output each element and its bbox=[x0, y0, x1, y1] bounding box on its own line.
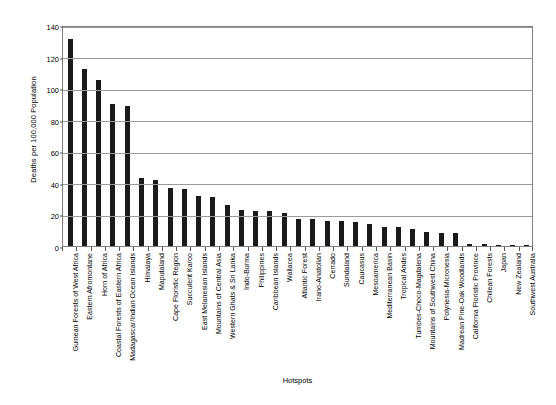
x-category-label: Philippines bbox=[258, 253, 265, 287]
bar bbox=[382, 227, 387, 246]
y-tick-mark bbox=[60, 153, 63, 154]
x-tick-mark bbox=[490, 247, 491, 251]
y-tick-mark bbox=[60, 184, 63, 185]
x-tick-mark bbox=[262, 247, 263, 251]
x-tick-mark bbox=[305, 247, 306, 251]
y-tick-mark bbox=[60, 121, 63, 122]
x-category-label: Mesoamerica bbox=[372, 253, 379, 296]
x-category-label: Guinean Forests of West Africa bbox=[72, 253, 79, 351]
x-tick-mark bbox=[62, 247, 63, 251]
bar bbox=[410, 229, 415, 246]
x-axis-title: Hotspots bbox=[62, 376, 533, 385]
y-tick-label: 120 bbox=[46, 54, 59, 63]
x-category-label: Madrean Pine-Oak Woodlands bbox=[458, 253, 465, 350]
x-tick-mark bbox=[119, 247, 120, 251]
bar bbox=[510, 245, 515, 246]
bar bbox=[310, 219, 315, 246]
gridline bbox=[63, 121, 532, 122]
x-category-label: East Melanesian Islands bbox=[201, 253, 208, 330]
x-category-label: Indo-Burma bbox=[243, 253, 250, 290]
bar bbox=[353, 222, 358, 246]
bar bbox=[225, 205, 230, 246]
y-tick-label: 140 bbox=[46, 23, 59, 32]
x-tick-mark bbox=[205, 247, 206, 251]
x-category-label: Himalaya bbox=[144, 253, 151, 283]
x-tick-mark bbox=[248, 247, 249, 251]
bar bbox=[524, 245, 529, 246]
x-tick-mark bbox=[447, 247, 448, 251]
x-category-label: Wallacea bbox=[286, 253, 293, 282]
x-category-label: Succulent Karoo bbox=[186, 253, 193, 305]
plot-area: 020406080100120140 bbox=[62, 26, 533, 247]
x-tick-mark bbox=[476, 247, 477, 251]
x-tick-mark bbox=[219, 247, 220, 251]
x-category-label: Tumbes-Choco-Magdalena bbox=[415, 253, 422, 339]
x-category-label: Japan bbox=[500, 253, 507, 272]
x-category-label: Cape Floristic Region bbox=[172, 253, 179, 321]
x-category-label: Atlantic Forest bbox=[301, 253, 308, 299]
x-tick-mark bbox=[333, 247, 334, 251]
x-tick-mark bbox=[91, 247, 92, 251]
y-tick-label: 60 bbox=[51, 149, 59, 158]
x-category-label: Caribbean Islands bbox=[272, 253, 279, 310]
x-category-label: New Zealand bbox=[515, 253, 522, 295]
y-tick-label: 20 bbox=[51, 212, 59, 221]
x-tick-mark bbox=[390, 247, 391, 251]
y-tick-mark bbox=[60, 58, 63, 59]
x-tick-mark bbox=[162, 247, 163, 251]
x-category-label: Maputaland bbox=[158, 253, 165, 290]
bar bbox=[296, 219, 301, 246]
x-tick-mark bbox=[276, 247, 277, 251]
bar bbox=[125, 106, 130, 246]
bar-chart: Deaths per 100,000 Population 0204060801… bbox=[0, 0, 556, 405]
x-axis-labels: Guinean Forests of West AfricaEastern Af… bbox=[62, 253, 533, 373]
x-category-label: Madagascar/Indian Ocean Islands bbox=[129, 253, 136, 361]
bar bbox=[110, 104, 115, 246]
x-category-label: Tropical Andes bbox=[400, 253, 407, 300]
x-tick-mark bbox=[76, 247, 77, 251]
x-category-label: Cerrado bbox=[329, 253, 336, 279]
x-tick-mark bbox=[405, 247, 406, 251]
y-tick-label: 80 bbox=[51, 117, 59, 126]
y-tick-mark bbox=[60, 90, 63, 91]
x-tick-mark bbox=[148, 247, 149, 251]
gridline bbox=[63, 216, 532, 217]
x-tick-mark bbox=[133, 247, 134, 251]
x-category-label: Caucasus bbox=[358, 253, 365, 285]
bar bbox=[453, 233, 458, 246]
gridline bbox=[63, 153, 532, 154]
x-category-label: Eastern Afromontane bbox=[86, 253, 93, 320]
bar bbox=[210, 197, 215, 246]
x-tick-mark bbox=[319, 247, 320, 251]
x-category-label: Horn of Africa bbox=[101, 253, 108, 296]
bar bbox=[282, 213, 287, 246]
bar bbox=[482, 244, 487, 246]
x-axis-ticks bbox=[62, 247, 533, 251]
y-tick-mark bbox=[60, 216, 63, 217]
gridline bbox=[63, 184, 532, 185]
bar bbox=[467, 244, 472, 246]
x-category-label: Sundaland bbox=[343, 253, 350, 287]
bar bbox=[496, 245, 501, 246]
x-category-label: Mountains of Central Asia bbox=[215, 253, 222, 334]
y-tick-label: 100 bbox=[46, 86, 59, 95]
bars-layer bbox=[63, 27, 532, 246]
y-axis-title: Deaths per 100,000 Population bbox=[29, 45, 38, 215]
x-category-label: Mediterranean Basin bbox=[386, 253, 393, 319]
x-category-label: Coastal Forests of Eastern Africa bbox=[115, 253, 122, 357]
x-tick-mark bbox=[290, 247, 291, 251]
x-tick-mark bbox=[233, 247, 234, 251]
x-category-label: Mountains of Southwest China bbox=[429, 253, 436, 349]
x-tick-mark bbox=[347, 247, 348, 251]
bar bbox=[96, 80, 101, 246]
x-tick-mark bbox=[105, 247, 106, 251]
bar bbox=[139, 178, 144, 246]
bar bbox=[182, 189, 187, 246]
x-tick-mark bbox=[176, 247, 177, 251]
y-tick-mark bbox=[60, 27, 63, 28]
x-category-label: California Floristic Province bbox=[472, 253, 479, 339]
bar bbox=[325, 221, 330, 246]
x-tick-mark bbox=[419, 247, 420, 251]
x-category-label: Irano-Anatolian bbox=[315, 253, 322, 301]
x-tick-mark bbox=[362, 247, 363, 251]
